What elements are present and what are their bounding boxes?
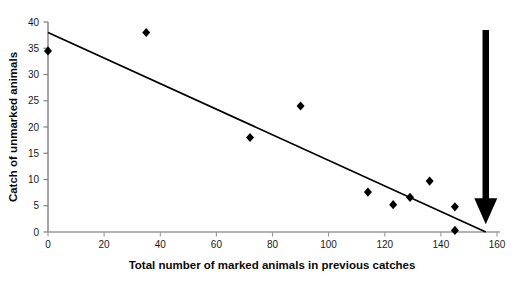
x-tick-label-100: 100 xyxy=(320,239,337,250)
y-tick-label-0: 0 xyxy=(33,227,39,238)
x-tick-label-0: 0 xyxy=(45,239,51,250)
y-tick-label-35: 35 xyxy=(28,43,40,54)
y-tick-label-40: 40 xyxy=(28,17,40,28)
x-axis-title: Total number of marked animals in previo… xyxy=(129,259,416,271)
y-tick-label-20: 20 xyxy=(28,122,40,133)
y-tick-label-25: 25 xyxy=(28,95,40,106)
y-axis-title: Catch of unmarked animals xyxy=(7,52,19,202)
y-tick-label-5: 5 xyxy=(33,200,39,211)
x-tick-label-20: 20 xyxy=(99,239,111,250)
y-tick-label-15: 15 xyxy=(28,148,40,159)
chart-canvas: 0 5 10 15 20 25 30 35 40 Catch of unmark… xyxy=(0,0,524,281)
x-tick-label-140: 140 xyxy=(433,239,450,250)
y-tick-label-10: 10 xyxy=(28,174,40,185)
x-tick-label-160: 160 xyxy=(489,239,506,250)
x-tick-label-60: 60 xyxy=(211,239,223,250)
x-tick-label-80: 80 xyxy=(267,239,279,250)
y-tick-label-30: 30 xyxy=(28,69,40,80)
x-tick-label-120: 120 xyxy=(376,239,393,250)
x-tick-label-40: 40 xyxy=(155,239,167,250)
